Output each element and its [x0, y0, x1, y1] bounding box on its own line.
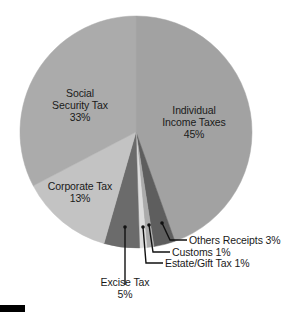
- label-social-line1: Social: [40, 87, 120, 99]
- label-excise-line1: Excise Tax: [95, 276, 155, 288]
- label-excise-tax: Excise Tax 5%: [95, 276, 155, 300]
- label-individual-income-taxes: Individual Income Taxes 45%: [152, 104, 236, 140]
- label-social-line2: Security Tax: [40, 99, 120, 111]
- pie-chart: [0, 0, 300, 312]
- leader-dot-excise: [123, 225, 127, 229]
- leader-dot-others: [160, 221, 164, 225]
- label-social-security-tax: Social Security Tax 33%: [40, 87, 120, 123]
- label-individual-pct: 45%: [152, 128, 236, 140]
- leader-dot-estate: [141, 225, 145, 229]
- label-excise-pct: 5%: [95, 288, 155, 300]
- label-individual-line2: Income Taxes: [152, 116, 236, 128]
- label-social-pct: 33%: [40, 111, 120, 123]
- label-corporate-line1: Corporate Tax: [40, 180, 120, 192]
- leader-dot-customs: [147, 223, 151, 227]
- label-individual-line1: Individual: [152, 104, 236, 116]
- label-estate-gift-tax: Estate/Gift Tax 1%: [165, 257, 249, 269]
- label-corporate-pct: 13%: [40, 192, 120, 204]
- label-customs: Customs 1%: [172, 246, 231, 258]
- label-corporate-tax: Corporate Tax 13%: [40, 180, 120, 204]
- black-bar-artifact: [0, 305, 25, 312]
- label-others-receipts: Others Receipts 3%: [189, 234, 281, 246]
